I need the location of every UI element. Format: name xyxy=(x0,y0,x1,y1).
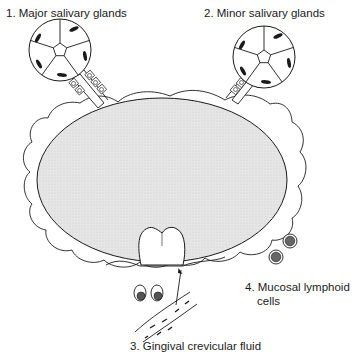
major-salivary-gland xyxy=(29,19,91,81)
crevicular-leukocytes xyxy=(134,285,163,301)
label-major-salivary-glands: 1. Major salivary glands xyxy=(6,7,127,20)
label-mucosal-lymphoid-cells-line2: cells xyxy=(257,295,280,308)
blood-vessel xyxy=(135,292,197,342)
minor-salivary-gland xyxy=(233,26,295,88)
label-mucosal-lymphoid-cells: 4. Mucosal lymphoid xyxy=(245,281,350,294)
label-gingival-crevicular-fluid: 3. Gingival crevicular fluid xyxy=(130,340,261,353)
diagram-canvas xyxy=(0,0,357,355)
label-minor-salivary-glands: 2. Minor salivary glands xyxy=(204,7,325,20)
